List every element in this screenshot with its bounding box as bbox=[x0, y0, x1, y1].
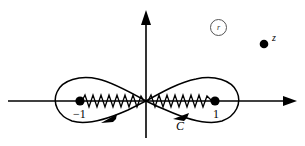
vertical-axis-arrowhead bbox=[141, 10, 151, 25]
axes-group bbox=[8, 10, 297, 138]
point-z-dot bbox=[260, 40, 269, 49]
branch-point-minus-one-dot bbox=[75, 96, 84, 105]
horizontal-axis-arrowhead bbox=[283, 96, 297, 106]
label-plus-one: 1 bbox=[213, 108, 219, 120]
label-contour-c: C bbox=[176, 120, 184, 132]
branch-point-plus-one-dot bbox=[210, 96, 219, 105]
complex-plane-figure: −1 1 C z r bbox=[0, 0, 305, 146]
circled-note-icon: r bbox=[210, 19, 227, 36]
label-point-z: z bbox=[272, 33, 276, 43]
figure-canvas bbox=[0, 0, 305, 146]
label-minus-one: −1 bbox=[73, 108, 86, 120]
contour-left-lobe bbox=[55, 78, 146, 123]
